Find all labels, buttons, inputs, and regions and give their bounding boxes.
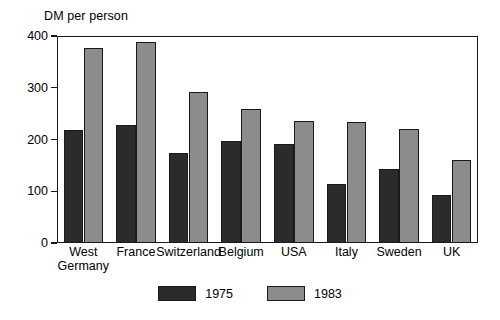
bar-1983-west-germany — [84, 48, 104, 243]
bar-1983-belgium — [241, 109, 261, 243]
x-axis-label-line: Germany — [51, 260, 116, 274]
bar-1983-usa — [294, 121, 314, 243]
legend-label-1975: 1975 — [205, 287, 233, 301]
chart-legend: 19751983 — [0, 286, 500, 301]
bar-chart: DM per person 0100200300400 WestGermanyF… — [0, 0, 500, 320]
legend-swatch-1975 — [158, 286, 196, 301]
legend-swatch-1983 — [267, 286, 305, 301]
bar-1983-sweden — [399, 129, 419, 243]
bar-1975-france — [116, 125, 136, 243]
x-axis-label-line: UK — [419, 246, 484, 260]
bar-1975-italy — [327, 184, 347, 243]
y-axis-tick-label: 400 — [27, 28, 48, 44]
bar-1983-uk — [452, 160, 472, 243]
bars-layer — [57, 36, 478, 243]
bar-1975-belgium — [221, 141, 241, 243]
y-axis-tick-label: 300 — [27, 80, 48, 96]
bar-1975-usa — [274, 144, 294, 243]
x-axis-label-uk: UK — [419, 246, 484, 260]
y-axis-tick-label: 100 — [27, 183, 48, 199]
y-axis-title: DM per person — [44, 9, 128, 23]
y-axis-tick-label: 200 — [27, 132, 48, 148]
legend-item-1983: 1983 — [267, 286, 342, 301]
bar-1983-switzerland — [189, 92, 209, 243]
bar-1983-italy — [347, 122, 367, 243]
x-axis-category-labels: WestGermanyFranceSwitzerlandBelgiumUSAIt… — [57, 246, 478, 280]
bar-1975-west-germany — [64, 130, 84, 243]
legend-item-1975: 1975 — [158, 286, 233, 301]
bar-1975-sweden — [379, 169, 399, 243]
bar-1983-france — [136, 42, 156, 243]
bar-1975-switzerland — [169, 153, 189, 243]
bar-1975-uk — [432, 195, 452, 243]
legend-label-1983: 1983 — [314, 287, 342, 301]
y-axis-tick-label: 0 — [41, 235, 48, 251]
